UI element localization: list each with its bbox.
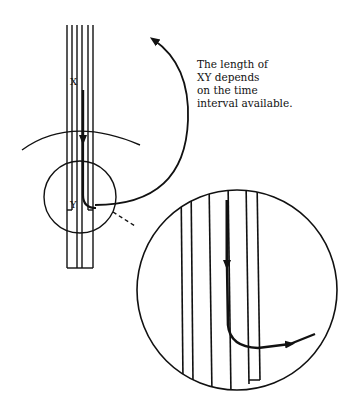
label-x: X (70, 76, 78, 87)
caption-line: XY depends (197, 71, 337, 84)
dashed-connector (113, 212, 135, 226)
caption-line: The length of (197, 58, 337, 71)
caption-line: on the time (197, 84, 337, 97)
caption: The length of XY depends on the time int… (197, 58, 337, 110)
horizon-arc (22, 131, 140, 150)
xy-path-large (227, 200, 315, 348)
xy-path-small (83, 90, 96, 208)
magnify-circle-large (137, 190, 337, 390)
label-y: Y (69, 199, 77, 210)
caption-line: interval available. (197, 97, 337, 110)
strip-magnified (181, 180, 260, 395)
curved-arrow (95, 40, 188, 205)
magnify-circle-small (44, 161, 116, 233)
